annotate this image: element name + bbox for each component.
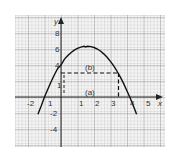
y-tick-neg2: -2 (50, 109, 58, 118)
y-tick-8: 8 (55, 29, 60, 38)
x-tick-1: 1 (79, 99, 84, 108)
y-tick-6: 6 (55, 45, 60, 54)
label-1-marker: 1 (57, 81, 62, 90)
x-tick-3: 3 (111, 99, 116, 108)
x-tick-neg1: 1 (48, 99, 53, 108)
x-tick-2: 2 (95, 99, 100, 108)
y-tick-neg4: -4 (50, 125, 58, 134)
label-b: (b) (85, 63, 95, 72)
y-tick-4: 4 (55, 61, 60, 70)
x-tick-neg2: -2 (27, 99, 35, 108)
graph-figure: y x 8 6 4 -2 -4 -2 1 1 2 3 4 5 (b) (a) 1 (0, 0, 173, 153)
major-grid (15, 15, 165, 147)
x-tick-4: 4 (130, 99, 135, 108)
parabola-chart: y x 8 6 4 -2 -4 -2 1 1 2 3 4 5 (b) (a) 1 (0, 0, 173, 153)
label-a: (a) (85, 88, 95, 97)
x-tick-5: 5 (146, 99, 151, 108)
